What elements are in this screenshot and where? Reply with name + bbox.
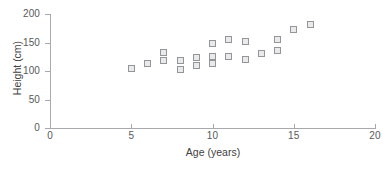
data-point-marker — [209, 60, 216, 67]
scatter-chart: 050100150200 05101520 Age (years) Height… — [0, 0, 392, 169]
data-point-marker — [193, 62, 200, 69]
data-point-marker — [225, 36, 232, 43]
data-point-marker — [290, 26, 297, 33]
data-point-marker — [225, 53, 232, 60]
x-tick-label: 5 — [119, 131, 143, 141]
data-point-marker — [242, 56, 249, 63]
data-point-marker — [144, 60, 151, 67]
data-point-marker — [258, 50, 265, 57]
data-point-marker — [160, 49, 167, 56]
data-point-marker — [209, 40, 216, 47]
data-point-marker — [128, 65, 135, 72]
data-point-marker — [177, 66, 184, 73]
x-tick-label: 15 — [282, 131, 306, 141]
data-point-marker — [274, 47, 281, 54]
data-point-marker — [307, 21, 314, 28]
x-axis-title: Age (years) — [50, 146, 376, 158]
x-tick-mark — [375, 124, 376, 129]
data-point-marker — [160, 57, 167, 64]
x-tick-label: 0 — [38, 131, 62, 141]
x-tick-label: 10 — [201, 131, 225, 141]
plot-area — [50, 14, 375, 128]
x-tick-label: 20 — [363, 131, 387, 141]
data-point-marker — [177, 57, 184, 64]
data-point-marker — [274, 36, 281, 43]
y-tick-mark — [45, 128, 50, 129]
y-axis-title: Height (cm) — [11, 13, 23, 123]
data-point-marker — [242, 38, 249, 45]
data-point-marker — [193, 54, 200, 61]
y-tick-label: 0 — [0, 123, 40, 133]
